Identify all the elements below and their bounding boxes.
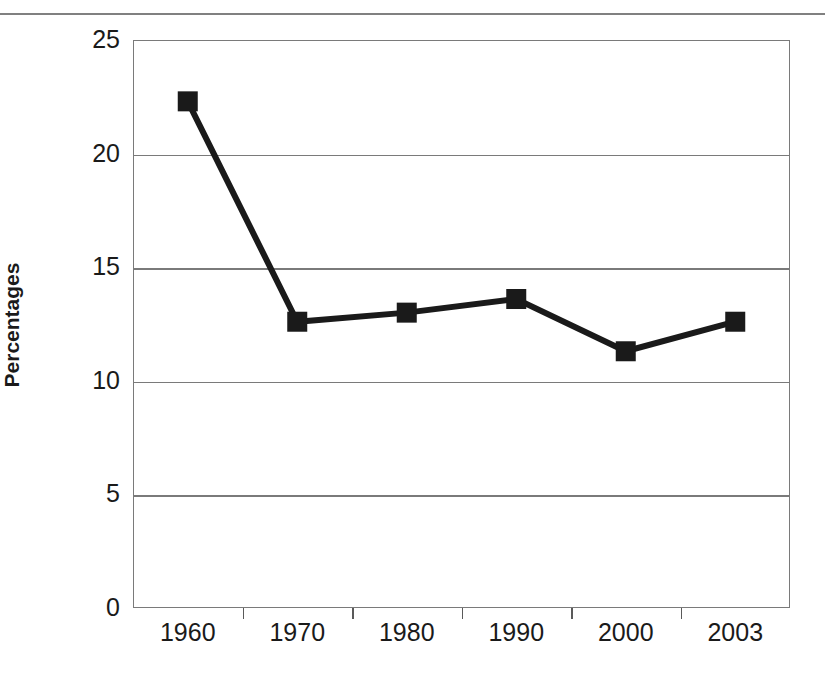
- x-tick-label-1980: 1980: [347, 617, 467, 647]
- y-tick-label-5: 5: [58, 481, 120, 506]
- chart-figure: Percentages 0510152025 19601970198019902…: [0, 0, 825, 676]
- x-tick-label-1970: 1970: [237, 617, 357, 647]
- x-tick-label-1990: 1990: [456, 617, 576, 647]
- y-tick-label-10: 10: [58, 368, 120, 393]
- y-tick-label-25: 25: [58, 27, 120, 52]
- y-tick-label-0: 0: [58, 595, 120, 620]
- x-tick-label-1960: 1960: [128, 617, 248, 647]
- y-tick-label-20: 20: [58, 141, 120, 166]
- y-tick-label-15: 15: [58, 254, 120, 279]
- y-axis-tick-labels: 0510152025: [0, 0, 825, 676]
- x-tick-label-2000: 2000: [566, 617, 686, 647]
- x-tick-label-2003: 2003: [675, 617, 795, 647]
